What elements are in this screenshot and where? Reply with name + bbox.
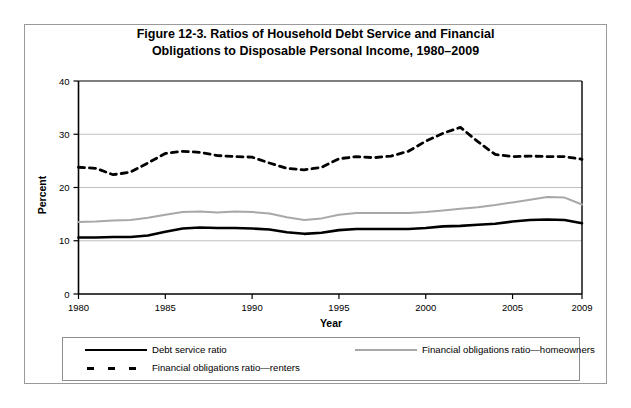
chart-legend: Debt service ratio Financial obligations… <box>62 337 580 381</box>
x-tick-label: 2009 <box>571 302 592 313</box>
y-axis-ticks: 010203040 <box>59 76 79 300</box>
y-tick-label: 20 <box>59 182 70 193</box>
legend-label-homeowners: Financial obligations ratio—homeowners <box>422 344 595 355</box>
x-tick-label: 2005 <box>502 302 523 313</box>
legend-item-homeowners: Financial obligations ratio—homeowners <box>355 344 595 355</box>
legend-label-renters: Financial obligations ratio—renters <box>152 362 300 373</box>
series-line <box>79 219 583 237</box>
y-tick-label: 40 <box>59 76 70 87</box>
y-tick-label: 10 <box>59 235 70 246</box>
legend-swatch-dashed-black-icon <box>85 363 147 373</box>
x-tick-label: 1990 <box>242 302 263 313</box>
y-axis-title: Percent <box>36 175 48 214</box>
legend-swatch-solid-black-icon <box>85 345 147 355</box>
y-tick-label: 30 <box>59 129 70 140</box>
x-tick-label: 2000 <box>415 302 436 313</box>
legend-label-debt-service-ratio: Debt service ratio <box>152 344 227 355</box>
x-tick-label: 1980 <box>68 302 89 313</box>
x-tick-label: 1995 <box>328 302 349 313</box>
gridlines <box>79 134 583 241</box>
legend-item-renters: Financial obligations ratio—renters <box>85 362 300 373</box>
legend-item-debt-service-ratio: Debt service ratio <box>85 344 227 355</box>
legend-swatch-solid-gray-icon <box>355 345 417 355</box>
x-tick-label: 1985 <box>155 302 176 313</box>
series-line <box>79 197 583 222</box>
x-axis-title: Year <box>320 317 342 329</box>
y-tick-label: 0 <box>64 289 69 300</box>
x-axis-ticks: 1980198519901995200020052009 <box>68 294 593 313</box>
data-series <box>79 127 583 237</box>
